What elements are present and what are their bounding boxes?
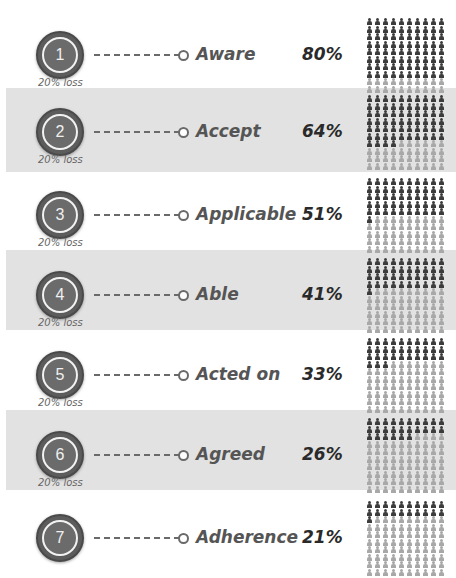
person-icon xyxy=(397,448,405,456)
person-icon xyxy=(381,125,389,133)
person-icon xyxy=(381,110,389,118)
person-icon xyxy=(413,18,421,26)
person-icon xyxy=(373,318,381,326)
person-icon xyxy=(413,433,421,441)
person-icon xyxy=(413,546,421,554)
person-icon xyxy=(429,501,437,509)
person-icon xyxy=(397,148,405,156)
person-icon xyxy=(389,418,397,426)
person-icon xyxy=(365,140,373,148)
person-icon-grid xyxy=(365,338,445,413)
person-icon-grid xyxy=(365,178,445,253)
connector-node-icon xyxy=(178,127,189,138)
person-icon xyxy=(389,238,397,246)
person-icon xyxy=(413,273,421,281)
person-icon xyxy=(381,18,389,26)
person-icon xyxy=(437,463,445,471)
stage-number: 5 xyxy=(42,357,78,393)
person-icon xyxy=(437,569,445,577)
person-icon xyxy=(413,471,421,479)
person-icon xyxy=(365,456,373,464)
person-icon xyxy=(373,63,381,71)
person-icon xyxy=(381,311,389,319)
person-icon xyxy=(429,103,437,111)
person-icon xyxy=(373,338,381,346)
loss-label: 20% loss xyxy=(38,317,83,328)
person-icon xyxy=(421,531,429,539)
person-icon xyxy=(421,338,429,346)
person-icon xyxy=(413,238,421,246)
person-icon xyxy=(397,524,405,532)
person-icon xyxy=(421,281,429,289)
person-icon xyxy=(373,163,381,171)
person-icon xyxy=(397,103,405,111)
person-icon xyxy=(373,110,381,118)
person-icon xyxy=(373,546,381,554)
person-icon xyxy=(365,486,373,494)
person-icon xyxy=(413,208,421,216)
person-icon xyxy=(397,368,405,376)
person-icon xyxy=(421,398,429,406)
person-icon xyxy=(389,546,397,554)
person-icon xyxy=(397,78,405,86)
person-icon xyxy=(413,140,421,148)
person-icon xyxy=(389,478,397,486)
person-icon xyxy=(373,463,381,471)
person-icon xyxy=(429,273,437,281)
person-icon xyxy=(413,303,421,311)
person-icon xyxy=(429,208,437,216)
person-icon xyxy=(421,478,429,486)
person-icon xyxy=(373,524,381,532)
person-icon xyxy=(365,186,373,194)
person-icon xyxy=(381,569,389,577)
person-icon xyxy=(405,258,413,266)
person-icon xyxy=(373,391,381,399)
person-icon xyxy=(381,296,389,304)
person-icon xyxy=(365,201,373,209)
person-icon xyxy=(429,456,437,464)
stage-number-circle: 4 xyxy=(36,271,84,319)
person-icon xyxy=(405,303,413,311)
person-icon xyxy=(397,26,405,34)
person-icon xyxy=(405,288,413,296)
person-icon xyxy=(429,56,437,64)
person-icon xyxy=(429,391,437,399)
stage-percent: 41% xyxy=(302,284,343,304)
person-icon xyxy=(413,288,421,296)
person-icon xyxy=(365,246,373,254)
person-icon xyxy=(397,531,405,539)
person-icon xyxy=(381,33,389,41)
person-icon xyxy=(365,18,373,26)
person-icon xyxy=(397,133,405,141)
person-icon xyxy=(421,303,429,311)
person-icon xyxy=(389,266,397,274)
person-icon xyxy=(397,486,405,494)
loss-label: 20% loss xyxy=(38,477,83,488)
person-icon xyxy=(429,140,437,148)
person-icon xyxy=(381,193,389,201)
person-icon xyxy=(389,125,397,133)
person-icon xyxy=(381,26,389,34)
stage-percent: 51% xyxy=(302,204,343,224)
person-icon xyxy=(429,406,437,414)
stage-number-circle: 7 xyxy=(36,514,84,562)
person-icon xyxy=(389,110,397,118)
person-icon xyxy=(397,383,405,391)
person-icon xyxy=(429,463,437,471)
person-icon xyxy=(389,398,397,406)
person-icon xyxy=(397,456,405,464)
person-icon xyxy=(437,361,445,369)
person-icon xyxy=(397,376,405,384)
person-icon xyxy=(365,441,373,449)
person-icon xyxy=(437,26,445,34)
person-icon xyxy=(365,509,373,517)
person-icon xyxy=(389,63,397,71)
person-icon xyxy=(437,516,445,524)
person-icon xyxy=(365,478,373,486)
person-icon xyxy=(437,426,445,434)
person-icon xyxy=(397,216,405,224)
person-icon xyxy=(381,433,389,441)
person-icon xyxy=(421,266,429,274)
person-icon xyxy=(389,281,397,289)
person-icon xyxy=(429,338,437,346)
